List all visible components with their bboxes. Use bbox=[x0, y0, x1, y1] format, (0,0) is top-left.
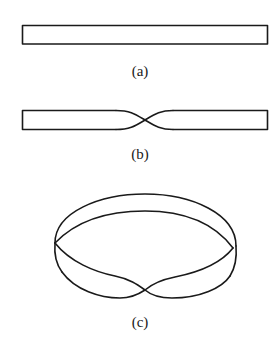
figure-drawing bbox=[0, 0, 280, 337]
panel-b-twisted-strip bbox=[23, 111, 268, 130]
panel-c-mobius-strip bbox=[55, 194, 236, 298]
caption-c: (c) bbox=[0, 314, 280, 330]
panel-a-flat-strip bbox=[23, 26, 268, 45]
mobius-strip-figure: (a) (b) (c) bbox=[0, 0, 280, 337]
caption-b: (b) bbox=[0, 146, 280, 162]
caption-a: (a) bbox=[0, 63, 280, 79]
